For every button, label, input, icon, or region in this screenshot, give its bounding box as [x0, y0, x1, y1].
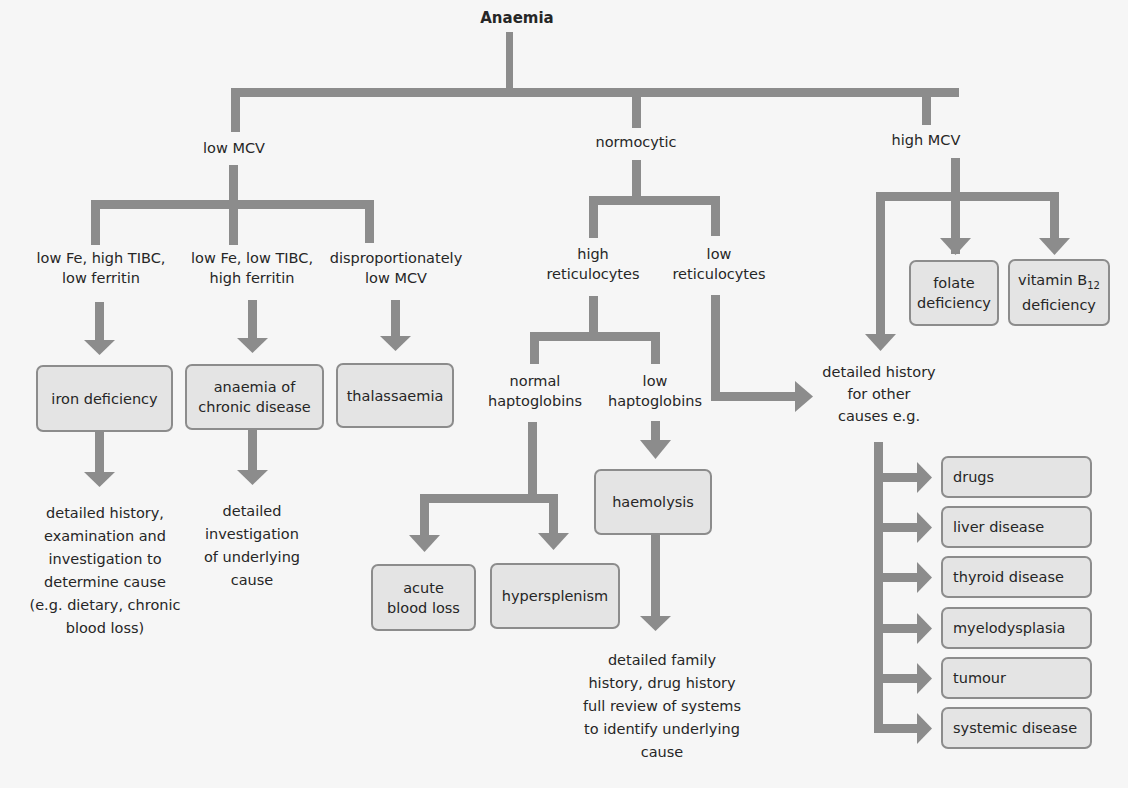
followup-line: of underlying: [204, 546, 300, 569]
box-cause-thyroid-disease: thyroid disease: [941, 556, 1092, 598]
node-line: haptoglobins: [488, 391, 582, 411]
test-line: low ferritin: [37, 268, 166, 288]
followup-line: detailed family: [583, 649, 741, 672]
box-label: deficiency: [917, 293, 991, 313]
node-line: haptoglobins: [608, 391, 702, 411]
node-high-reticulocytes: high reticulocytes: [546, 244, 639, 284]
node-test-chronic-disease: low Fe, low TIBC, high ferritin: [191, 248, 313, 288]
box-cause-liver-disease: liver disease: [941, 506, 1092, 548]
box-cause-tumour: tumour: [941, 657, 1092, 699]
b12-subscript: 12: [1087, 279, 1100, 290]
node-normal-haptoglobins: normal haptoglobins: [488, 371, 582, 411]
box-cause-systemic-disease: systemic disease: [941, 707, 1092, 749]
box-acute-blood-loss: acute blood loss: [371, 564, 476, 631]
followup-iron-deficiency: detailed history, examination and invest…: [30, 502, 181, 640]
box-label: liver disease: [953, 517, 1044, 537]
box-label: anaemia of: [214, 377, 296, 397]
node-line: high: [546, 244, 639, 264]
box-cause-myelodysplasia: myelodysplasia: [941, 607, 1092, 649]
node-low-mcv: low MCV: [203, 138, 265, 158]
box-folate-deficiency: folate deficiency: [909, 260, 999, 326]
root-node-anaemia: Anaemia: [480, 8, 553, 28]
box-label: tumour: [953, 668, 1006, 688]
followup-chronic-disease: detailed investigation of underlying cau…: [204, 500, 300, 592]
anaemia-flowchart: Anaemia low MCV normocytic high MCV low …: [0, 0, 1128, 788]
followup-haemolysis: detailed family history, drug history fu…: [583, 649, 741, 764]
followup-line: to identify underlying: [583, 718, 741, 741]
followup-line: investigation to: [30, 548, 181, 571]
node-low-haptoglobins: low haptoglobins: [608, 371, 702, 411]
followup-line: detailed: [204, 500, 300, 523]
test-line: low MCV: [330, 268, 462, 288]
box-label: deficiency: [1022, 295, 1096, 315]
box-label: vitamin B12: [1018, 270, 1100, 296]
followup-line: history, drug history: [583, 672, 741, 695]
node-line: normal: [488, 371, 582, 391]
box-label: acute: [403, 578, 444, 598]
box-vitamin-b12-deficiency: vitamin B12 deficiency: [1008, 259, 1110, 326]
test-line: disproportionately: [330, 248, 462, 268]
box-label: drugs: [953, 467, 994, 487]
node-test-iron-deficiency: low Fe, high TIBC, low ferritin: [37, 248, 166, 288]
followup-line: investigation: [204, 523, 300, 546]
test-line: low Fe, high TIBC,: [37, 248, 166, 268]
box-label: folate: [933, 273, 975, 293]
box-hypersplenism: hypersplenism: [490, 563, 620, 629]
test-line: high ferritin: [191, 268, 313, 288]
node-line: low: [608, 371, 702, 391]
node-line: reticulocytes: [546, 264, 639, 284]
box-label: blood loss: [387, 598, 460, 618]
box-anaemia-chronic-disease: anaemia of chronic disease: [185, 364, 324, 430]
followup-line: determine cause: [30, 571, 181, 594]
followup-line: cause: [583, 741, 741, 764]
box-iron-deficiency: iron deficiency: [36, 365, 173, 432]
box-label: hypersplenism: [502, 586, 608, 606]
box-label: thyroid disease: [953, 567, 1064, 587]
node-line: causes e.g.: [822, 405, 935, 427]
node-test-thalassaemia: disproportionately low MCV: [330, 248, 462, 288]
box-cause-drugs: drugs: [941, 456, 1092, 498]
box-thalassaemia: thalassaemia: [336, 363, 454, 428]
node-high-mcv: high MCV: [892, 130, 961, 150]
followup-line: (e.g. dietary, chronic: [30, 594, 181, 617]
node-line: low: [672, 244, 765, 264]
box-label: chronic disease: [198, 397, 311, 417]
node-low-reticulocytes: low reticulocytes: [672, 244, 765, 284]
node-other-causes: detailed history for other causes e.g.: [822, 361, 935, 427]
followup-line: blood loss): [30, 617, 181, 640]
followup-line: detailed history,: [30, 502, 181, 525]
box-haemolysis: haemolysis: [594, 469, 712, 535]
box-label: systemic disease: [953, 718, 1077, 738]
box-label: iron deficiency: [51, 389, 157, 409]
box-label: thalassaemia: [347, 386, 444, 406]
node-line: detailed history: [822, 361, 935, 383]
followup-line: full review of systems: [583, 695, 741, 718]
node-line: reticulocytes: [672, 264, 765, 284]
box-label: myelodysplasia: [953, 618, 1065, 638]
box-label: haemolysis: [612, 492, 694, 512]
node-line: for other: [822, 383, 935, 405]
b12-text: vitamin B: [1018, 272, 1087, 288]
followup-line: cause: [204, 569, 300, 592]
node-normocytic: normocytic: [595, 132, 676, 152]
followup-line: examination and: [30, 525, 181, 548]
test-line: low Fe, low TIBC,: [191, 248, 313, 268]
